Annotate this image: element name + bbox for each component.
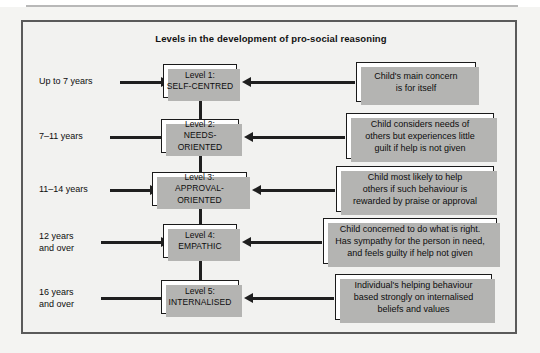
- arrow-description-to-level-2: [252, 136, 345, 139]
- arrow-level-4-to-level-5: [199, 260, 202, 281]
- level-3-number: Level 3:: [153, 172, 246, 183]
- arrow-description-to-level-1: [250, 81, 355, 84]
- age-label-level-5: 16 years and over: [39, 287, 74, 310]
- level-box-4[interactable]: Level 4: EMPATHIC: [163, 224, 237, 258]
- page-top-rule: [26, 5, 518, 7]
- arrow-description-to-level-5: [252, 297, 334, 300]
- figure-frame: Levels in the development of pro-social …: [21, 20, 517, 334]
- description-box-5[interactable]: Individual's helping behaviour based str…: [335, 274, 492, 320]
- level-box-5[interactable]: Level 5: INTERNALISED: [161, 280, 239, 314]
- level-2-number: Level 2:: [162, 119, 238, 130]
- level-2-name: NEEDS-ORIENTED: [162, 130, 238, 153]
- arrow-age-to-level-5: [101, 297, 162, 300]
- age-label-level-4: 12 years and over: [39, 231, 74, 254]
- level-4-name: EMPATHIC: [178, 241, 221, 252]
- description-box-3[interactable]: Child most likely to help others if such…: [336, 166, 494, 212]
- level-box-3[interactable]: Level 3: APPROVAL-ORIENTED: [152, 172, 247, 206]
- description-box-4[interactable]: Child concerned to do what is right. Has…: [323, 218, 497, 264]
- arrow-age-to-level-3: [110, 189, 151, 192]
- figure-title: Levels in the development of pro-social …: [23, 33, 519, 44]
- description-box-2[interactable]: Child considers needs of others but expe…: [346, 113, 494, 159]
- arrow-description-to-level-3: [260, 189, 335, 192]
- description-box-1[interactable]: Child's main concern is for itself: [356, 62, 476, 102]
- level-1-name: SELF-CENTRED: [167, 81, 233, 92]
- arrow-description-to-level-4: [250, 241, 322, 244]
- level-4-number: Level 4:: [178, 230, 221, 241]
- level-3-name: APPROVAL-ORIENTED: [153, 183, 246, 206]
- level-box-1[interactable]: Level 1: SELF-CENTRED: [163, 64, 237, 98]
- age-label-level-3: 11–14 years: [39, 184, 88, 196]
- arrow-age-to-level-1: [120, 81, 162, 84]
- age-label-level-2: 7–11 years: [39, 131, 83, 143]
- level-1-number: Level 1:: [167, 70, 233, 81]
- arrow-age-to-level-4: [101, 241, 162, 244]
- level-5-name: INTERNALISED: [168, 297, 231, 308]
- level-box-2[interactable]: Level 2: NEEDS-ORIENTED: [161, 119, 239, 153]
- age-label-level-1: Up to 7 years: [39, 76, 93, 88]
- level-5-number: Level 5:: [168, 286, 231, 297]
- arrow-age-to-level-2: [110, 136, 162, 139]
